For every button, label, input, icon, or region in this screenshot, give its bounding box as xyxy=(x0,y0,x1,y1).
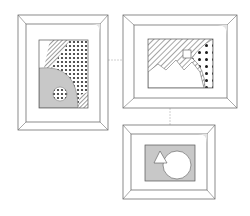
artwork-left xyxy=(39,40,88,108)
artwork-top-right xyxy=(148,39,213,88)
gallery-canvas xyxy=(0,0,250,216)
frame-left xyxy=(18,15,108,130)
artwork-bottom-right xyxy=(145,145,195,181)
frame-bottom-right xyxy=(123,125,215,199)
frame-top-right xyxy=(123,15,237,108)
